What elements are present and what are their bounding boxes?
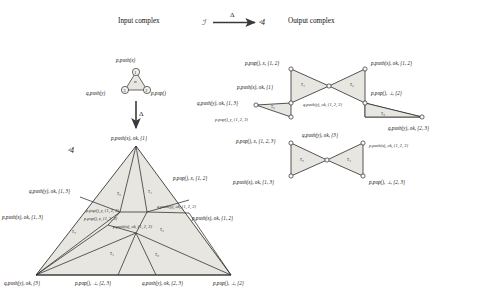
output-complex-symbol-left: ᵈ4 [68,146,74,155]
big-label-center-lower: p.push(x), ok, {1, 2, 3} [113,225,152,230]
big-label-right-mid: p.push(x), ok, {1, 2} [192,216,233,221]
right-tau3-label: τ₃ [381,110,385,116]
tau5-triangle [291,143,327,176]
right-output-complex-shape [254,67,424,178]
big-label-bottom-right: p.pop(), ⊥, {2} [213,281,244,286]
right-tau1-label: τ₁ [301,81,305,87]
input-label-p-pop: p.pop() [151,91,166,96]
big-label-left-mid: p.push(x), ok, {1, 3} [2,215,43,220]
right-tau2-label: τ₂ [350,81,354,87]
big-label-center-upper: p.pop(), y, {1, 2, 3} [86,209,119,214]
right-label-left-lower-small: p.pop(), y, {1, 2, 3} [215,118,248,123]
tau1-triangle [291,69,329,103]
right-label-top-left: p.pop(), x, {1, 2} [245,61,279,66]
right-label-upper-left-inner: p.push(x), ok, {1} [237,85,273,90]
big-label-center-mid: p.pop(), x, {1, 2, 3} [84,217,117,222]
right-label-right-upper: p.pop(), ⊥, {2} [371,91,402,96]
right-label-bottom-left: p.push(x), ok, {1, 3} [233,180,274,185]
right-label-top-right: p.push(x), ok, {1, 2} [371,61,412,66]
right-tau5-label: τ₅ [300,156,304,162]
right-label-center-lower: q.push(y), ok, {3} [302,133,338,138]
big-output-complex-shape [36,146,231,275]
figure-canvas: Input complex ℐ Δ ᵈ4 Output complex p.pu… [0,0,477,303]
big-label-bottom-mid-right: q.push(y), ok, {2, 3} [142,281,183,286]
right-tau4-label: τ₄ [347,156,351,162]
right-label-far-left: q.push(y), ok, {1, 3} [197,101,238,106]
right-label-mid-left-lower: p.pop(), x, {1, 2, 3} [236,139,275,144]
input-complex-header: Input complex [118,17,160,25]
big-apex-label: p.push(x), ok, {1} [111,136,147,141]
input-label-q-push-y: q.push(y) [86,91,105,96]
big-label-right-upper: p.pop(), x, {1, 2} [173,176,207,181]
input-label-p-push-x: p.push(x) [116,58,135,63]
big-tau1-label: τ₁ [148,188,152,194]
input-face-sigma-label: σ [134,79,136,84]
right-tau6-label: τ₆ [271,103,275,109]
output-complex-symbol: ᵈ4 [259,18,265,27]
tau2-triangle [329,69,365,103]
input-vertex-label-3: 3 [123,88,125,93]
right-label-right-lower-inner: p.push(x), ok, {1, 2, 3} [369,144,408,149]
big-tau3-label: τ₃ [155,251,159,257]
big-label-bottom-left: q.push(y), ok, {3} [4,281,40,286]
big-tau2-label: τ₂ [160,226,164,232]
input-vertex-label-1: 1 [134,70,136,75]
input-complex-symbol: ℐ [202,18,205,27]
big-tau4-label: τ₄ [110,250,114,256]
big-tau5-label: τ₅ [72,228,76,234]
input-vertex-label-2: 2 [145,88,147,93]
delta-label-vertical: Δ [139,110,144,118]
big-label-left-upper: q.push(y), ok, {1, 3} [29,189,70,194]
big-label-right-mid-inner: q.push(y), ok, {1, 2, 3} [157,205,196,210]
big-label-bottom-mid-left: p.pop(), ⊥, {2, 3} [75,281,111,286]
big-tau6-label: τ₆ [117,190,121,196]
right-label-far-right: q.push(y), ok, {2, 3} [388,126,429,131]
delta-label-horizontal: Δ [230,11,235,19]
output-complex-header: Output complex [288,17,335,25]
right-label-bottom-right: p.pop(), ⊥, {2, 3} [369,180,405,185]
right-label-center-top: q.push(y), ok, {1, 2, 3} [303,103,342,108]
tau4-triangle [327,143,363,176]
